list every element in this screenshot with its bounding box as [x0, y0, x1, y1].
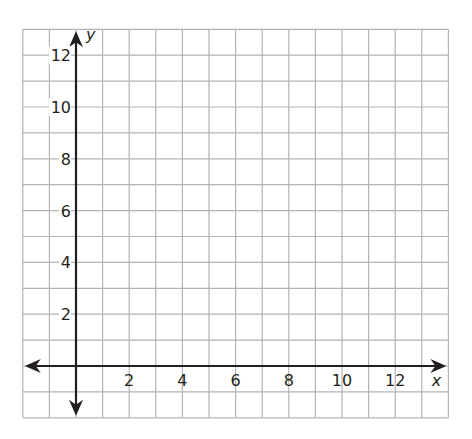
- y-tick-label: 12: [51, 46, 71, 65]
- y-tick-label: 6: [61, 202, 71, 221]
- y-tick-label: 8: [61, 150, 71, 169]
- x-tick-label: 6: [231, 371, 241, 390]
- y-axis-label: y: [85, 25, 96, 44]
- coordinate-plane: 24681012 24681012 x y: [0, 0, 472, 439]
- x-tick-label: 10: [332, 371, 352, 390]
- y-tick-label: 2: [61, 305, 71, 324]
- x-tick-label: 2: [124, 371, 134, 390]
- x-tick-label: 4: [177, 371, 187, 390]
- grid-lines: [23, 29, 449, 418]
- x-tick-label: 8: [284, 371, 294, 390]
- x-tick-label: 12: [385, 371, 405, 390]
- x-axis-label: x: [431, 371, 442, 390]
- y-tick-label: 4: [61, 253, 71, 272]
- y-tick-label: 10: [51, 98, 71, 117]
- x-tick-labels: 24681012: [124, 371, 405, 390]
